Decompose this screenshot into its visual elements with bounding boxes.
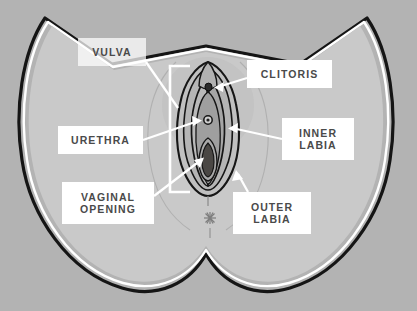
label-urethra[interactable]: URETHRA bbox=[58, 126, 143, 154]
clitoris-glans bbox=[205, 83, 212, 91]
label-vaginal-opening[interactable]: VAGINAL OPENING bbox=[62, 182, 154, 224]
vulva-anatomy-diagram: VULVA CLITORIS URETHRA INNER LABIA VAGIN… bbox=[0, 0, 417, 311]
anus-starburst bbox=[204, 212, 216, 224]
urethra-opening-center bbox=[206, 118, 209, 121]
label-outer-labia[interactable]: OUTER LABIA bbox=[233, 192, 311, 234]
label-vulva[interactable]: VULVA bbox=[78, 38, 146, 66]
label-clitoris[interactable]: CLITORIS bbox=[247, 60, 332, 88]
anatomy-illustration bbox=[0, 0, 417, 311]
label-inner-labia[interactable]: INNER LABIA bbox=[282, 118, 354, 160]
